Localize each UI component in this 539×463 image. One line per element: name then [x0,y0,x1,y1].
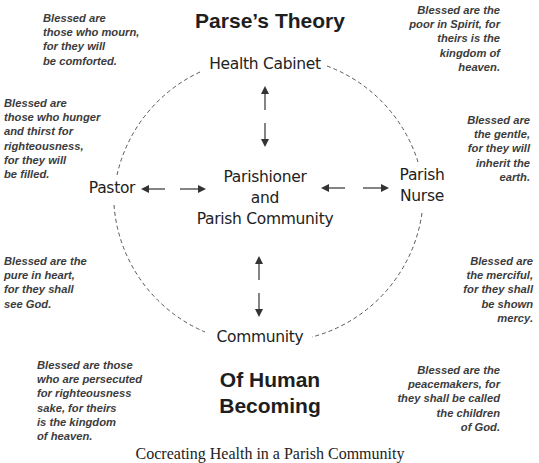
beatitude-mourn: Blessed are those who mourn, for they wi… [43,11,139,68]
dashed-arc-bottom-right [312,213,422,337]
node-health-cabinet: Health Cabinet [195,54,335,75]
node-community: Community [205,327,315,348]
beatitude-hunger: Blessed are those who hunger and thirst … [4,96,100,181]
beatitude-merciful: Blessed are the merciful, for they shall… [463,254,533,325]
title-bottom: Of Human Becoming [180,367,360,419]
node-center-parishioner: Parishioner and Parish Community [190,167,340,230]
node-parish-nurse: Parish Nurse [392,165,452,207]
dashed-arc-top-right [327,66,418,162]
beatitude-pure-in-heart: Blessed are the pure in heart, for they … [4,254,87,311]
beatitude-peacemakers: Blessed are the peacemakers, for they sh… [397,363,500,434]
dashed-arc-top-left [117,72,200,175]
beatitude-persecuted: Blessed are those who are persecuted for… [37,358,142,443]
beatitude-gentle: Blessed are the gentle, for they will in… [467,113,530,184]
caption: Cocreating Health in a Parish Community [120,445,420,463]
title-top: Parse’s Theory [170,8,370,34]
beatitude-poor-in-spirit: Blessed are the poor in Spirit, for thei… [409,3,500,74]
